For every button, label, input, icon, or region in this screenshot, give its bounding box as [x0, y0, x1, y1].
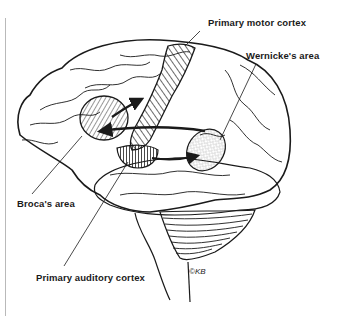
label-primary-motor-cortex: Primary motor cortex — [208, 17, 306, 28]
wernickes-area-region — [179, 122, 234, 179]
artist-signature: ©KB — [189, 267, 206, 276]
cerebellum-outline — [160, 210, 255, 260]
brocas-area-region — [80, 96, 128, 140]
label-wernickes-area: Wernicke's area — [246, 50, 319, 61]
label-brocas-area: Broca's area — [17, 198, 75, 209]
primary-motor-cortex-region — [130, 44, 195, 150]
primary-auditory-cortex-region — [117, 145, 158, 168]
brain-diagram — [0, 0, 338, 316]
label-primary-auditory-cortex: Primary auditory cortex — [36, 272, 145, 283]
